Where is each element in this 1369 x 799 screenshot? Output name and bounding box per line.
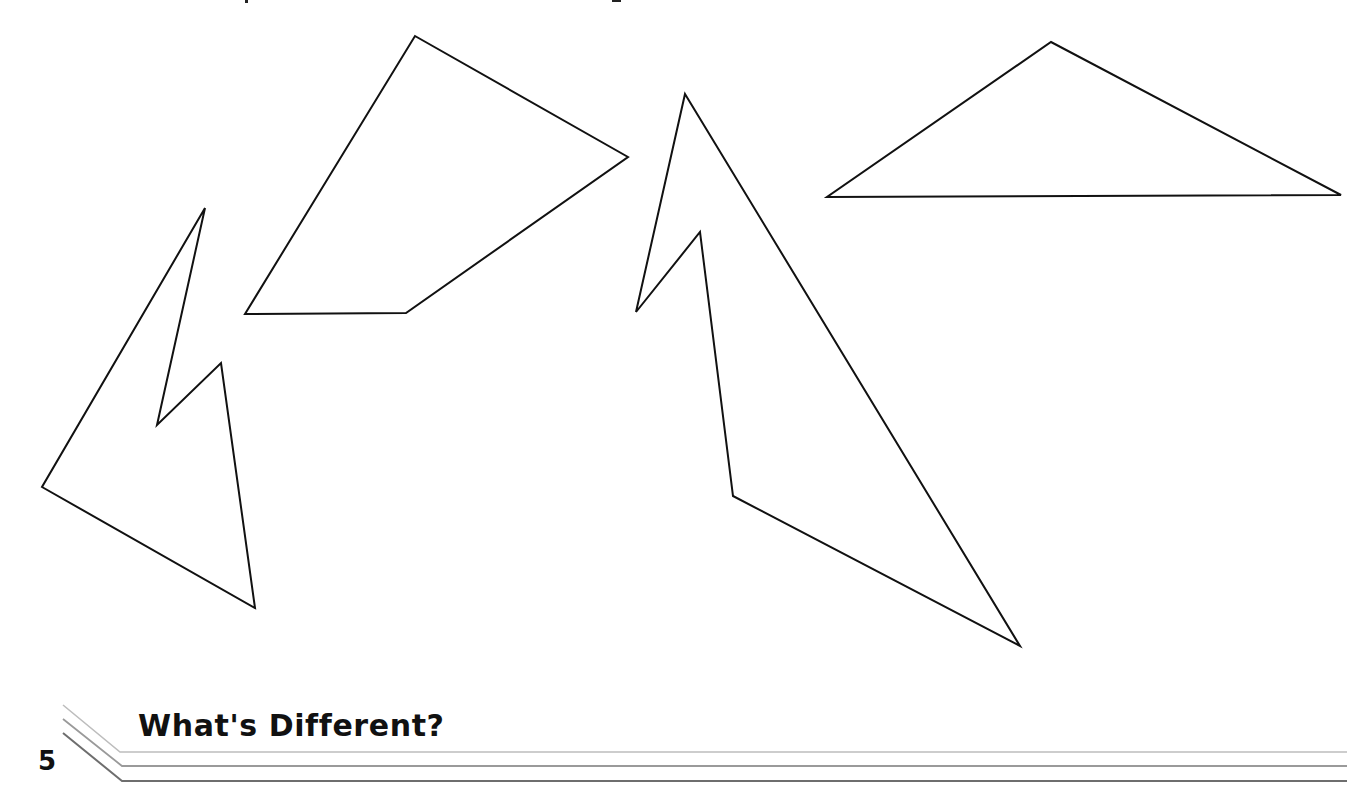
quadrilateral-shape <box>245 36 628 314</box>
page-number: 5 <box>38 746 56 776</box>
cropped-text-fragment <box>612 0 621 2</box>
obtuse-triangle-shape <box>827 42 1341 197</box>
cropped-text-fragment <box>245 0 248 3</box>
worksheet-page: 5 What's Different? <box>0 0 1369 799</box>
left-concave-polygon-shape <box>42 208 255 608</box>
section-title: What's Different? <box>138 706 445 746</box>
middle-concave-polygon-shape <box>636 94 1020 646</box>
shapes-canvas <box>0 0 1369 799</box>
